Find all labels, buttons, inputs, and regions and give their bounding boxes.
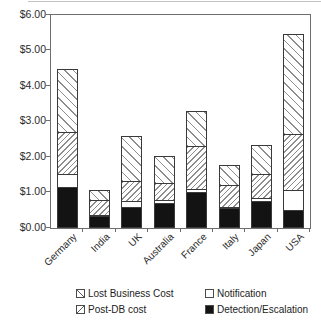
x-tick [82,228,83,232]
bar-segment-backslash [121,136,142,182]
bar-germany [57,69,78,228]
x-tick [180,228,181,232]
stacked-bar-chart: $0.00$1.00$2.00$3.00$4.00$5.00$6.00 Germ… [0,0,321,333]
x-tick [115,228,116,232]
bar-segment-slash [283,134,304,191]
x-tick [277,228,278,232]
y-axis-label: $3.00 [2,114,46,126]
bar-usa [283,34,304,228]
legend-label: Notification [217,288,266,299]
legend-label: Post-DB cost [88,304,146,315]
x-tick [244,228,245,232]
y-tick [46,85,50,86]
y-axis-label: $6.00 [2,8,46,20]
bar-segment-backslash [251,145,272,175]
bar-italy [219,165,240,228]
chart-legend: Lost Business CostNotificationPost-DB co… [76,288,308,315]
y-axis-label: $5.00 [2,43,46,55]
bar-segment-solid [89,216,110,228]
bar-segment-backslash [283,34,304,135]
bar-segment-solid [154,203,175,228]
legend-swatch-empty-icon [205,289,214,298]
y-tick [46,191,50,192]
y-axis-label: $2.00 [2,150,46,162]
y-axis-label: $4.00 [2,79,46,91]
bar-segment-white [283,190,304,211]
bar-australia [154,156,175,228]
bar-segment-slash [186,146,207,190]
y-tick [46,14,50,15]
bar-segment-backslash [219,165,240,186]
legend-item: Notification [205,288,308,299]
legend-label: Detection/Escalation [217,304,308,315]
x-tick [212,228,213,232]
y-tick [46,120,50,121]
bar-segment-backslash [154,156,175,184]
legend-swatch-slash-icon [76,305,85,314]
bar-segment-white [57,174,78,188]
y-tick [46,156,50,157]
x-tick [309,228,310,232]
bar-segment-backslash [57,69,78,133]
bar-segment-solid [121,207,142,228]
y-tick [46,227,50,228]
legend-swatch-backslash-icon [76,289,85,298]
bar-india [89,190,110,228]
y-axis-label: $0.00 [2,221,46,233]
legend-item: Post-DB cost [76,304,205,315]
bar-segment-backslash [186,111,207,147]
legend-item: Lost Business Cost [76,288,205,299]
bar-segment-solid [219,208,240,228]
bar-segment-slash [121,181,142,202]
legend-swatch-solid-icon [205,305,214,314]
bar-japan [251,145,272,228]
bar-segment-slash [219,185,240,208]
bar-segment-slash [251,174,272,199]
bar-uk [121,136,142,228]
bar-segment-slash [57,132,78,175]
bar-segment-slash [154,183,175,201]
x-tick [147,228,148,232]
y-axis-label: $1.00 [2,185,46,197]
bar-segment-solid [57,187,78,228]
bar-france [186,111,207,228]
y-tick [46,49,50,50]
bar-segment-solid [251,201,272,228]
bar-segment-slash [89,200,110,216]
top-hairline [28,1,321,2]
bar-segment-solid [186,192,207,228]
bar-segment-solid [283,210,304,228]
legend-item: Detection/Escalation [205,304,308,315]
plot-area [50,14,311,229]
legend-label: Lost Business Cost [88,288,174,299]
